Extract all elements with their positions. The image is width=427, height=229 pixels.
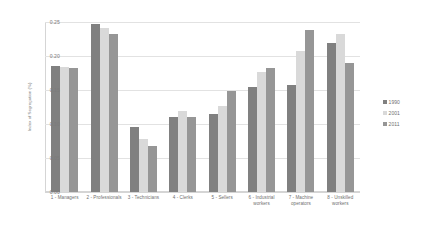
bar-group	[203, 22, 242, 192]
chart-legend: 199020012011	[383, 99, 400, 127]
bar[interactable]	[130, 127, 139, 192]
legend-swatch-icon	[383, 111, 387, 115]
bar-groups	[45, 22, 360, 192]
legend-item[interactable]: 1990	[383, 99, 400, 105]
bar[interactable]	[296, 51, 305, 192]
bar[interactable]	[139, 139, 148, 192]
legend-item[interactable]: 2011	[383, 121, 400, 127]
legend-label: 2001	[389, 110, 400, 116]
bar-group	[321, 22, 360, 192]
x-tick-label: 4 - Clerks	[163, 195, 202, 207]
y-tick-label: 0.20	[24, 53, 60, 59]
bar[interactable]	[248, 87, 257, 192]
bar[interactable]	[51, 66, 60, 192]
x-tick-label: 7 - Machine operators	[281, 195, 320, 207]
bar[interactable]	[100, 28, 109, 192]
x-tick-label: 5 - Sellers	[203, 195, 242, 207]
bar[interactable]	[209, 114, 218, 192]
gridline	[45, 192, 360, 193]
bar[interactable]	[287, 85, 296, 192]
bar[interactable]	[266, 68, 275, 192]
legend-label: 2011	[389, 121, 400, 127]
bar[interactable]	[227, 91, 236, 192]
bar[interactable]	[218, 106, 227, 192]
bar[interactable]	[257, 72, 266, 192]
legend-swatch-icon	[383, 100, 387, 104]
plot-area: Index of Segregation (%)	[45, 22, 360, 192]
x-tick-label: 3 - Technicians	[124, 195, 163, 207]
x-tick-label: 1 - Managers	[45, 195, 84, 207]
bar[interactable]	[69, 68, 78, 192]
bar-group	[242, 22, 281, 192]
bar[interactable]	[305, 30, 314, 192]
x-tick-label: 6 - Industrial workers	[242, 195, 281, 207]
bar[interactable]	[109, 34, 118, 192]
legend-item[interactable]: 2001	[383, 110, 400, 116]
bar-group	[163, 22, 202, 192]
y-tick-label: 0.05	[24, 155, 60, 161]
y-tick-label: 0.15	[24, 87, 60, 93]
bar[interactable]	[345, 63, 354, 192]
bar-chart: Index of Segregation (%) 0.000.050.100.1…	[0, 0, 427, 229]
bar[interactable]	[187, 117, 196, 192]
bar[interactable]	[178, 111, 187, 192]
bar[interactable]	[91, 24, 100, 192]
x-tick-label: 2 - Professionals	[84, 195, 123, 207]
bar-group	[45, 22, 84, 192]
bar-group	[281, 22, 320, 192]
bar-group	[84, 22, 123, 192]
bar[interactable]	[148, 146, 157, 192]
y-tick-label: 0.25	[24, 19, 60, 25]
bar-group	[124, 22, 163, 192]
x-tick-label: 8 - Unskilled workers	[321, 195, 360, 207]
bar[interactable]	[60, 67, 69, 192]
x-axis-labels: 1 - Managers2 - Professionals3 - Technic…	[45, 195, 360, 207]
bar[interactable]	[336, 34, 345, 192]
y-tick-label: 0.10	[24, 121, 60, 127]
legend-label: 1990	[389, 99, 400, 105]
bar[interactable]	[327, 43, 336, 192]
bar[interactable]	[169, 117, 178, 192]
legend-swatch-icon	[383, 122, 387, 126]
